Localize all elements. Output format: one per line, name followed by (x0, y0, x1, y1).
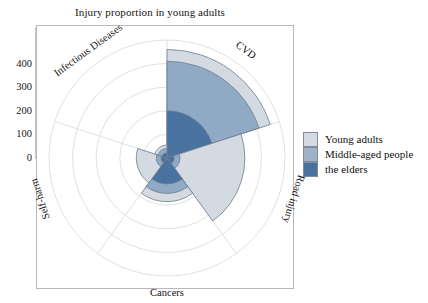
legend-label: the elders (325, 162, 367, 177)
axis-tick-label: 100 (16, 128, 32, 139)
legend-swatch-elders (303, 162, 318, 177)
legend-item[interactable]: Middle-aged people (303, 147, 427, 162)
legend-item[interactable]: the elders (303, 162, 427, 177)
radial-axis-ticks: 4003002001000 (0, 25, 36, 289)
legend-label: Young adults (325, 132, 383, 147)
legend-label: Middle-aged people (325, 147, 413, 162)
chart-title: Injury proportion in young adults (0, 6, 300, 18)
axis-tick-label: 400 (16, 57, 32, 68)
legend-swatch-young-adults (303, 132, 318, 147)
legend-swatch-middle-aged (303, 147, 318, 162)
legend-item[interactable]: Young adults (303, 132, 427, 147)
chart-root: Injury proportion in young adults 400300… (0, 0, 428, 303)
axis-tick-label: 300 (16, 81, 32, 92)
polar-sectors (136, 49, 270, 221)
legend: Young adults Middle-aged people the elde… (303, 132, 427, 177)
plot-area: CVDRoad injuryCancersSelf-harmInfectious… (36, 25, 294, 289)
axis-tick-label: 0 (27, 152, 32, 163)
axis-tick-label: 200 (16, 104, 32, 115)
category-label-cancers: Cancers (150, 287, 184, 298)
